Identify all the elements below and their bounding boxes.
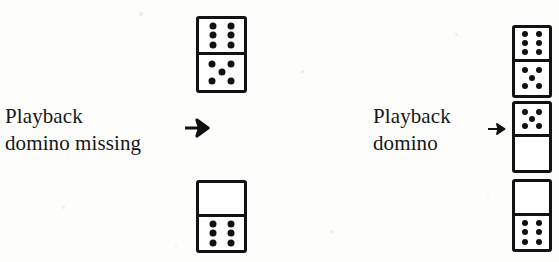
paper-speckle bbox=[455, 33, 458, 36]
domino-pip bbox=[536, 109, 542, 115]
domino-pip bbox=[208, 77, 215, 84]
domino-right-2-upper-half bbox=[515, 104, 549, 137]
domino-right-3 bbox=[512, 179, 552, 252]
domino-playback-figure: Playback domino missing Playback domino bbox=[0, 0, 559, 262]
domino-pip bbox=[209, 239, 216, 246]
right-arrow-icon-left bbox=[184, 117, 210, 139]
domino-right-2-lower-half bbox=[515, 137, 549, 170]
caption-left-line-1: Playback bbox=[5, 103, 141, 130]
domino-pip bbox=[529, 116, 535, 122]
paper-speckle bbox=[139, 12, 143, 16]
domino-pip bbox=[209, 230, 216, 237]
domino-pip bbox=[536, 239, 542, 245]
domino-pip bbox=[209, 22, 216, 29]
domino-left-top-lower-half bbox=[199, 55, 244, 91]
paper-speckle bbox=[301, 70, 304, 73]
domino-pip bbox=[227, 230, 234, 237]
caption-right-line-2: domino bbox=[373, 130, 451, 157]
domino-pip bbox=[536, 220, 542, 226]
domino-pip bbox=[522, 109, 528, 115]
domino-right-1-upper-half bbox=[515, 28, 549, 62]
caption-playback-domino-missing: Playback domino missing bbox=[5, 103, 141, 157]
domino-right-3-lower-half bbox=[515, 216, 549, 250]
domino-pip bbox=[522, 229, 528, 235]
paper-speckle bbox=[62, 206, 65, 209]
domino-pip bbox=[536, 229, 542, 235]
domino-pip bbox=[536, 31, 542, 37]
domino-pip bbox=[227, 22, 234, 29]
caption-playback-domino: Playback domino bbox=[373, 103, 451, 157]
domino-pip bbox=[228, 77, 235, 84]
domino-left-top-upper-half bbox=[199, 19, 244, 55]
domino-pip bbox=[218, 69, 225, 76]
domino-right-1-lower-half bbox=[515, 62, 549, 96]
domino-pip bbox=[208, 60, 215, 67]
paper-speckle bbox=[330, 230, 333, 233]
paper-speckle bbox=[175, 245, 177, 247]
domino-pip bbox=[209, 41, 216, 48]
domino-pip bbox=[209, 220, 216, 227]
domino-pip bbox=[536, 67, 542, 73]
domino-pip bbox=[227, 32, 234, 39]
domino-right-3-upper-half bbox=[515, 182, 549, 216]
domino-left-bottom bbox=[196, 180, 247, 253]
domino-pip bbox=[522, 123, 528, 129]
domino-pip bbox=[522, 239, 528, 245]
domino-pip bbox=[522, 83, 528, 89]
domino-pip bbox=[227, 41, 234, 48]
domino-pip bbox=[227, 220, 234, 227]
domino-right-2 bbox=[512, 101, 552, 173]
domino-left-bottom-upper-half bbox=[199, 183, 244, 217]
domino-pip bbox=[536, 49, 542, 55]
paper-speckle bbox=[487, 196, 489, 198]
caption-right-line-1: Playback bbox=[373, 103, 451, 130]
domino-pip bbox=[228, 60, 235, 67]
domino-pip bbox=[209, 32, 216, 39]
domino-pip bbox=[536, 40, 542, 46]
domino-left-bottom-lower-half bbox=[199, 217, 244, 251]
domino-right-1 bbox=[512, 25, 552, 98]
domino-pip bbox=[522, 67, 528, 73]
domino-pip bbox=[522, 40, 528, 46]
domino-pip bbox=[522, 31, 528, 37]
domino-pip bbox=[529, 75, 535, 81]
domino-left-top bbox=[196, 16, 247, 93]
domino-pip bbox=[522, 49, 528, 55]
domino-pip bbox=[522, 220, 528, 226]
domino-pip bbox=[227, 239, 234, 246]
right-arrow-icon-right bbox=[487, 121, 506, 137]
domino-pip bbox=[536, 83, 542, 89]
caption-left-line-2: domino missing bbox=[5, 130, 141, 157]
domino-pip bbox=[536, 123, 542, 129]
